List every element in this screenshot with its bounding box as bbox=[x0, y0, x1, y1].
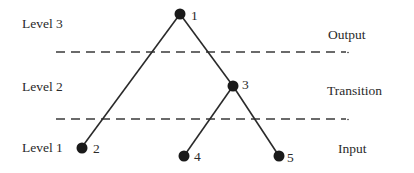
node-3-label: 3 bbox=[242, 77, 249, 92]
node-5: 5 bbox=[274, 150, 295, 165]
node-2-label: 2 bbox=[93, 141, 100, 156]
node-dot-icon bbox=[274, 151, 285, 162]
node-dot-icon bbox=[228, 81, 239, 92]
level-2-label: Level 2 bbox=[22, 79, 63, 94]
edge-1-2 bbox=[82, 14, 180, 147]
node-4: 4 bbox=[179, 149, 202, 164]
edge-3-5 bbox=[233, 86, 279, 156]
divider-end-dot bbox=[347, 52, 349, 54]
node-5-label: 5 bbox=[287, 150, 294, 165]
output-label: Output bbox=[328, 27, 366, 42]
divider-end-dot bbox=[347, 119, 349, 121]
node-dot-icon bbox=[179, 151, 190, 162]
edge-3-4 bbox=[184, 86, 233, 156]
node-3: 3 bbox=[228, 77, 250, 92]
node-4-label: 4 bbox=[194, 149, 201, 164]
hierarchy-diagram: 1 3 2 4 5 Level 3 Level 2 Level 1 Output… bbox=[0, 0, 414, 173]
level-1-label: Level 1 bbox=[22, 140, 63, 155]
input-label: Input bbox=[338, 141, 367, 156]
level-3-label: Level 3 bbox=[22, 16, 63, 31]
transition-label: Transition bbox=[327, 83, 382, 98]
node-1-label: 1 bbox=[191, 8, 198, 23]
node-dot-icon bbox=[175, 9, 186, 20]
node-dot-icon bbox=[77, 143, 88, 154]
node-1: 1 bbox=[175, 8, 198, 23]
edge-1-3 bbox=[180, 14, 233, 86]
node-2: 2 bbox=[77, 141, 100, 156]
